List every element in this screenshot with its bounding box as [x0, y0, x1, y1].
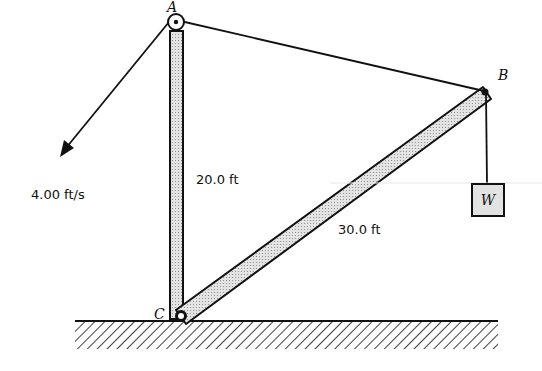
label-b: B: [497, 67, 508, 83]
label-c: C: [154, 306, 165, 322]
hanging-rope: [486, 93, 487, 184]
pulley-a: [168, 14, 184, 30]
weight-label: W: [481, 192, 497, 208]
boom-length-label: 30.0 ft: [338, 222, 381, 237]
rope: [66, 20, 484, 148]
vertical-post: [170, 31, 183, 319]
label-a: A: [165, 0, 177, 15]
boom: [176, 87, 491, 324]
rope-speed-label: 4.00 ft/s: [31, 187, 85, 202]
weight-box: W: [472, 184, 504, 216]
ground: [75, 321, 498, 349]
velocity-arrow-icon: [60, 140, 74, 157]
post-length-label: 20.0 ft: [196, 172, 239, 187]
crane-diagram: W A B C 20.0 ft 30.0 ft 4.00 ft/s: [0, 0, 542, 371]
pivot-c: [175, 310, 187, 322]
point-b: [482, 89, 489, 96]
